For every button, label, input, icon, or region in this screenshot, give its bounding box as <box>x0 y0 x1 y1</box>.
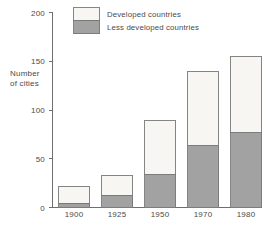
bar-group-1980 <box>231 56 262 207</box>
y-tick-label-200: 200 <box>31 9 45 18</box>
legend-label-less-developed: Less developed countries <box>107 23 199 32</box>
chart-canvas: 200 150 100 50 0 Number of cities <box>0 0 270 227</box>
bar-group-1970 <box>188 71 219 208</box>
y-axis-title-line2: of cities <box>10 79 39 88</box>
bar-1970-developed <box>188 71 219 145</box>
legend-swatch-less-developed <box>74 21 100 34</box>
bar-1980-less-developed <box>231 132 262 207</box>
bar-group-1925 <box>102 175 133 207</box>
legend-label-developed: Developed countries <box>107 10 181 19</box>
bar-1900-less-developed <box>59 204 90 208</box>
y-axis-title-line1: Number <box>10 69 40 78</box>
y-tick-label-100: 100 <box>31 106 45 115</box>
bar-1925-developed <box>102 175 133 196</box>
legend-swatch-developed <box>74 8 100 21</box>
x-tick-label-1900: 1900 <box>65 210 84 219</box>
y-tick-label-150: 150 <box>31 57 45 66</box>
bar-group-1950 <box>145 121 176 208</box>
bar-1925-less-developed <box>102 196 133 208</box>
bar-1900-developed <box>59 186 90 204</box>
bar-1950-developed <box>145 121 176 175</box>
y-tick-label-0: 0 <box>40 204 45 213</box>
x-tick-label-1970: 1970 <box>194 210 213 219</box>
y-tick-label-50: 50 <box>36 155 46 164</box>
bar-1950-less-developed <box>145 174 176 207</box>
x-tick-label-1925: 1925 <box>108 210 127 219</box>
x-tick-label-1980: 1980 <box>237 210 256 219</box>
stacked-bar-chart: 200 150 100 50 0 Number of cities <box>0 0 270 227</box>
bar-1970-less-developed <box>188 145 219 207</box>
bar-group-1900 <box>59 186 90 207</box>
bar-1980-developed <box>231 56 262 132</box>
x-tick-label-1950: 1950 <box>151 210 170 219</box>
